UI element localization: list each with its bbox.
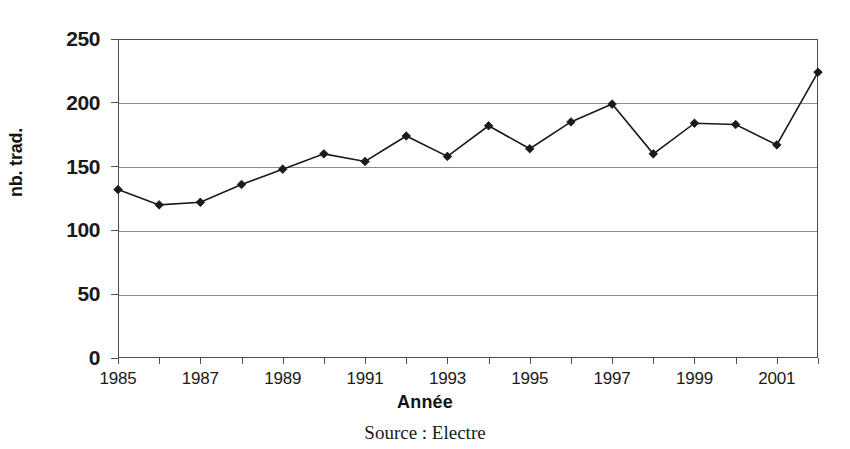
data-point-marker: [361, 157, 370, 166]
x-axis-tick-label: 1995: [500, 370, 560, 387]
x-axis-tick: [736, 358, 737, 364]
y-axis-tick: [111, 230, 118, 231]
data-point-marker: [567, 118, 576, 127]
x-axis-tick: [612, 358, 613, 364]
x-axis-tick: [694, 358, 695, 364]
x-axis-tick: [447, 358, 448, 364]
data-point-marker: [155, 201, 164, 210]
data-point-marker: [196, 198, 205, 207]
x-axis-tick-label: 1993: [417, 370, 477, 387]
x-axis-tick-label: 1991: [335, 370, 395, 387]
source-caption: Source : Electre: [0, 422, 850, 444]
x-axis-title: Année: [0, 392, 850, 413]
data-point-marker: [731, 120, 740, 129]
x-axis-tick: [200, 358, 201, 364]
x-axis-tick-label: 1985: [88, 370, 148, 387]
y-axis-title: nb. trad.: [6, 103, 27, 223]
y-axis-tick-label: 0: [24, 347, 100, 368]
data-series-line: [118, 39, 818, 358]
x-axis-tick: [159, 358, 160, 364]
x-axis-tick: [283, 358, 284, 364]
series-markers-group: [114, 68, 823, 209]
data-point-marker: [525, 144, 534, 153]
figure-container: 050100150200250 198519871989199119931995…: [0, 0, 850, 449]
y-axis-tick-label: 150: [24, 156, 100, 177]
chart-area: 050100150200250 198519871989199119931995…: [0, 0, 850, 400]
x-axis-tick: [365, 358, 366, 364]
data-point-marker: [320, 150, 329, 159]
x-axis-tick: [406, 358, 407, 364]
x-axis-tick: [777, 358, 778, 364]
x-axis-tick-label: 1987: [170, 370, 230, 387]
data-point-marker: [402, 132, 411, 141]
x-axis-tick: [242, 358, 243, 364]
x-axis-tick: [653, 358, 654, 364]
x-axis-tick: [118, 358, 119, 364]
x-axis-tick-label: 1989: [253, 370, 313, 387]
data-point-marker: [814, 68, 823, 77]
x-axis-tick: [489, 358, 490, 364]
x-axis-tick-label: 1999: [664, 370, 724, 387]
y-axis-tick: [111, 102, 118, 103]
y-axis-tick-label: 50: [24, 283, 100, 304]
x-axis-tick-label: 1997: [582, 370, 642, 387]
y-axis-tick-label: 100: [24, 219, 100, 240]
y-axis-tick: [111, 166, 118, 167]
data-point-marker: [278, 165, 287, 174]
data-point-marker: [114, 185, 123, 194]
data-point-marker: [773, 141, 782, 150]
x-axis-tick: [818, 358, 819, 364]
x-axis-tick: [571, 358, 572, 364]
y-axis-tick: [111, 39, 118, 40]
x-axis-tick: [324, 358, 325, 364]
x-axis-tick-label: 2001: [747, 370, 807, 387]
series-polyline: [118, 72, 818, 205]
y-axis-tick: [111, 294, 118, 295]
y-axis-tick-label: 250: [24, 28, 100, 49]
x-axis-tick: [530, 358, 531, 364]
y-axis-tick-label: 200: [24, 92, 100, 113]
y-axis-tick: [111, 358, 118, 359]
data-point-marker: [237, 180, 246, 189]
